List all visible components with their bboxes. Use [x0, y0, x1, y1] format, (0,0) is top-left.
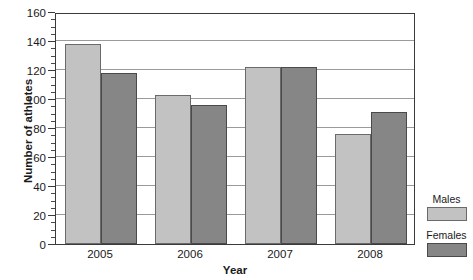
- y-axis-minor-tick: [51, 230, 55, 231]
- y-axis-minor-tick: [51, 85, 55, 86]
- y-axis-major-tick: [48, 70, 55, 71]
- legend-label: Females: [420, 229, 473, 241]
- y-axis-tick-label: 20: [33, 210, 46, 222]
- light-gray-swatch: [427, 207, 467, 221]
- y-axis-tick-label: 120: [27, 65, 46, 77]
- y-axis-minor-tick: [51, 172, 55, 173]
- y-axis-minor-tick: [51, 237, 55, 238]
- y-axis-tick-label: 40: [33, 181, 46, 193]
- y-axis-minor-tick: [51, 48, 55, 49]
- y-axis-minor-tick: [51, 114, 55, 115]
- plot-area: [55, 13, 415, 245]
- y-axis-minor-tick: [51, 77, 55, 78]
- dark-gray-swatch: [427, 243, 467, 257]
- y-axis-major-tick: [48, 128, 55, 129]
- y-axis-minor-tick: [51, 164, 55, 165]
- y-axis-minor-tick: [51, 56, 55, 57]
- x-axis-tick-labels: 2005200620072008: [55, 248, 415, 264]
- y-axis-minor-tick: [51, 27, 55, 28]
- x-axis-title: Year: [55, 264, 415, 276]
- y-axis-minor-tick: [51, 19, 55, 20]
- y-axis-minor-tick: [51, 179, 55, 180]
- legend-label: Males: [420, 193, 473, 205]
- x-axis-tick-label: 2008: [357, 248, 383, 260]
- bar-males-2008: [335, 134, 371, 244]
- y-axis-minor-tick: [51, 222, 55, 223]
- y-axis-minor-tick: [51, 201, 55, 202]
- bar-males-2007: [245, 67, 281, 244]
- legend-entry-females: Females: [420, 229, 473, 257]
- bar-males-2006: [155, 95, 191, 244]
- bar-males-2005: [65, 44, 101, 244]
- y-axis-major-tick: [48, 12, 55, 13]
- y-axis-minor-tick: [51, 135, 55, 136]
- bar-females-2007: [281, 67, 317, 244]
- y-axis-minor-tick: [51, 208, 55, 209]
- cropped-title-artifact: [0, 0, 473, 5]
- y-axis-minor-tick: [51, 121, 55, 122]
- y-axis-major-tick: [48, 186, 55, 187]
- y-axis-minor-tick: [51, 106, 55, 107]
- y-axis-major-tick: [48, 244, 55, 245]
- x-axis-tick-label: 2005: [87, 248, 113, 260]
- y-axis-major-tick: [48, 215, 55, 216]
- y-axis-tick-label: 0: [40, 239, 46, 251]
- y-axis-tick-label: 160: [27, 7, 46, 19]
- y-axis-minor-tick: [51, 92, 55, 93]
- y-axis-tick-label: 60: [33, 152, 46, 164]
- y-axis-tick-label: 140: [27, 36, 46, 48]
- y-axis-minor-tick: [51, 63, 55, 64]
- y-axis-major-tick: [48, 99, 55, 100]
- bar-females-2008: [371, 112, 407, 244]
- y-axis-major-tick: [48, 157, 55, 158]
- y-axis-minor-tick: [51, 34, 55, 35]
- bar-chart: Number of athletes 020406080100120140160…: [0, 0, 473, 280]
- bars-layer: [56, 14, 414, 244]
- chart-legend: MalesFemales: [420, 193, 473, 265]
- y-axis-minor-tick: [51, 150, 55, 151]
- y-axis-minor-tick: [51, 193, 55, 194]
- x-axis-tick-label: 2007: [267, 248, 293, 260]
- bar-females-2005: [101, 73, 137, 244]
- bar-females-2006: [191, 105, 227, 244]
- legend-entry-males: Males: [420, 193, 473, 221]
- y-axis-tick-label: 100: [27, 94, 46, 106]
- y-axis-tick-label: 80: [33, 123, 46, 135]
- y-axis-minor-tick: [51, 143, 55, 144]
- x-axis-tick-label: 2006: [177, 248, 203, 260]
- y-axis-major-tick: [48, 41, 55, 42]
